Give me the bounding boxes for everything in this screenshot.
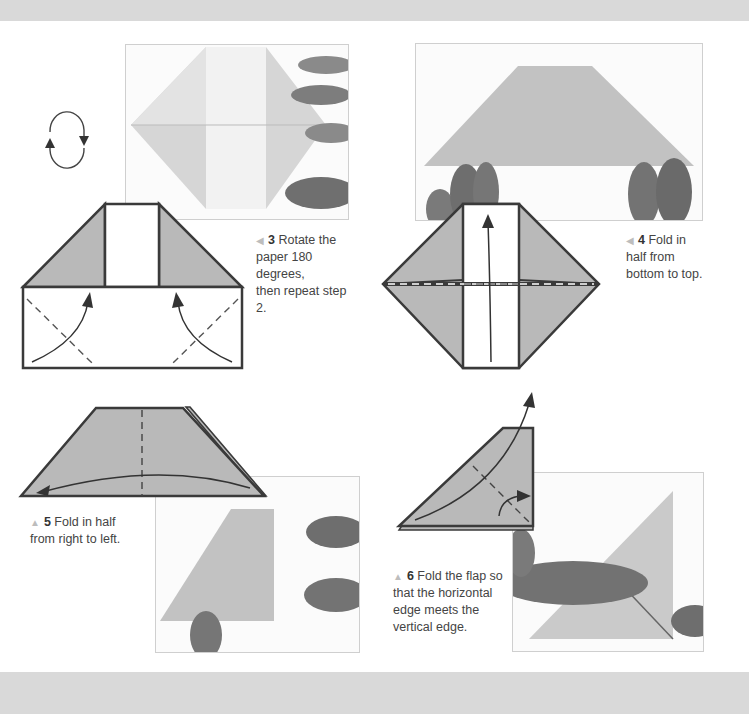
left-marker-icon: ◀ — [626, 235, 634, 246]
step-4-diagram — [380, 200, 602, 372]
step-number: 3 — [268, 233, 275, 247]
step-number: 4 — [638, 233, 645, 247]
step-6-diagram — [393, 388, 543, 533]
step-3-diagram — [20, 200, 250, 372]
bottom-gray-band — [0, 672, 749, 714]
top-gray-band — [0, 0, 749, 21]
step-6-caption: ▲6 Fold the flap so that the horizontal … — [393, 568, 513, 636]
step-4-photo — [415, 43, 703, 221]
left-marker-icon: ◀ — [256, 235, 264, 246]
step-5-photo — [155, 476, 360, 653]
up-marker-icon: ▲ — [30, 517, 40, 528]
rotate-180-icon — [38, 110, 98, 170]
step-5-caption: ▲5 Fold in half from right to left. — [30, 514, 150, 548]
step-3-photo — [125, 44, 349, 220]
up-marker-icon: ▲ — [393, 571, 403, 582]
step-number: 6 — [407, 569, 414, 583]
step-5-diagram — [18, 400, 270, 500]
step-4-caption: ◀4 Fold in half from bottom to top. — [626, 232, 726, 283]
step-number: 5 — [44, 515, 51, 529]
step-3-caption: ◀3 Rotate the paper 180 degrees, then re… — [256, 232, 356, 317]
